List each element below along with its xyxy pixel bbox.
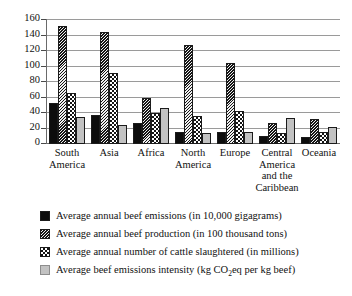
swatch-checkerboard-icon xyxy=(40,247,50,257)
bar xyxy=(109,73,118,144)
swatch-solid-black-icon xyxy=(40,211,50,221)
y-tick-label: 20 xyxy=(14,122,40,132)
legend-label-subscript: 2 xyxy=(228,269,232,278)
legend-item: Average annual beef emissions (in 10,000… xyxy=(40,209,340,227)
bar xyxy=(142,98,151,145)
bar xyxy=(328,127,337,144)
bar xyxy=(184,45,193,144)
bar xyxy=(235,111,244,144)
bar-group xyxy=(88,0,130,144)
bar xyxy=(175,132,184,144)
bar xyxy=(100,32,109,144)
bar xyxy=(151,113,160,144)
bar-group xyxy=(214,0,256,144)
legend-item: Average annual number of cattle slaughte… xyxy=(40,245,340,263)
bar xyxy=(202,133,211,144)
y-tick-label: 120 xyxy=(14,44,40,54)
bar xyxy=(160,108,169,144)
legend-item-label: Average annual beef production (in 100 t… xyxy=(56,227,287,240)
bar xyxy=(91,115,100,144)
x-axis-category-labels: SouthAmericaAsiaAfricaNorthAmericaEurope… xyxy=(46,147,340,205)
beef-statistics-bar-chart: 160140120100806040200 SouthAmericaAsiaAf… xyxy=(0,0,352,296)
y-tick-label: 80 xyxy=(14,75,40,85)
y-axis-tick-labels: 160140120100806040200 xyxy=(14,0,40,150)
x-category-label-line: America xyxy=(165,159,221,171)
y-tick-label: 60 xyxy=(14,91,40,101)
x-category-label-line: Caribbean xyxy=(249,182,305,194)
bar-group xyxy=(172,0,214,144)
chart-legend: Average annual beef emissions (in 10,000… xyxy=(40,209,340,281)
bar xyxy=(118,125,127,144)
x-category-label: Oceania xyxy=(291,147,347,159)
bar xyxy=(193,116,202,144)
swatch-light-gray-icon xyxy=(40,265,50,275)
bar-group xyxy=(256,0,298,144)
legend-item-label: Average annual number of cattle slaughte… xyxy=(56,245,299,258)
x-category-label-line: Oceania xyxy=(291,147,347,159)
bar-group xyxy=(298,0,340,144)
y-tick-label: 0 xyxy=(14,137,40,147)
y-tick-label: 40 xyxy=(14,106,40,116)
bar xyxy=(277,133,286,144)
bar xyxy=(259,136,268,144)
bar xyxy=(268,123,277,144)
legend-item-label: Average beef emissions intensity (kg CO2… xyxy=(56,263,295,276)
bar xyxy=(286,118,295,144)
bar xyxy=(226,63,235,144)
bar-series-layer xyxy=(46,0,340,144)
legend-item: Average beef emissions intensity (kg CO2… xyxy=(40,263,340,281)
y-tick-label: 160 xyxy=(14,13,40,23)
bar xyxy=(319,132,328,144)
bar-group xyxy=(46,0,88,144)
x-category-label-line: and the xyxy=(249,170,305,182)
bar xyxy=(217,132,226,144)
bar xyxy=(49,103,58,144)
bar xyxy=(133,123,142,144)
bar xyxy=(244,132,253,144)
swatch-diagonal-hatch-icon xyxy=(40,229,50,239)
bar xyxy=(58,26,67,144)
bar xyxy=(301,137,310,144)
bar xyxy=(310,119,319,144)
bar xyxy=(67,93,76,144)
bar-group xyxy=(130,0,172,144)
x-category-label-line: America xyxy=(249,159,305,171)
x-category-label-line: America xyxy=(39,159,95,171)
legend-item: Average annual beef production (in 100 t… xyxy=(40,227,340,245)
legend-item-label: Average annual beef emissions (in 10,000… xyxy=(56,209,282,222)
bar xyxy=(76,117,85,144)
plot-area: 160140120100806040200 xyxy=(0,0,352,150)
y-tick-label: 100 xyxy=(14,60,40,70)
y-tick-label: 140 xyxy=(14,29,40,39)
